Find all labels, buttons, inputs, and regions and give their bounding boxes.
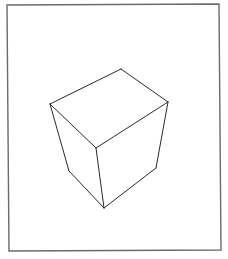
diagram-canvas	[0, 0, 228, 259]
background	[0, 0, 228, 259]
